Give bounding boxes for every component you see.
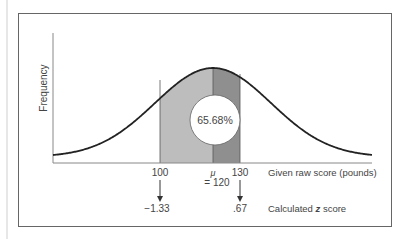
- tick-130: 130: [232, 167, 249, 178]
- raw-axis-label: Given raw score (pounds): [268, 167, 377, 178]
- arrowhead-130-icon: [237, 196, 243, 202]
- z-axis-label-suffix: score: [320, 203, 346, 214]
- tick-100: 100: [152, 167, 169, 178]
- tick-mu-value: = 120: [204, 177, 230, 188]
- normal-distribution-figure: 65.68% Frequency 100 μ = 120 130 Given r…: [0, 0, 411, 239]
- percent-label: 65.68%: [197, 114, 233, 126]
- z-score-130: .67: [233, 203, 247, 214]
- z-score-100: −1.33: [144, 203, 170, 214]
- y-axis-label: Frequency: [38, 64, 49, 111]
- z-axis-label-prefix: Calculated: [268, 203, 316, 214]
- z-axis-label: Calculated z score: [268, 203, 346, 214]
- arrowhead-100-icon: [157, 196, 163, 202]
